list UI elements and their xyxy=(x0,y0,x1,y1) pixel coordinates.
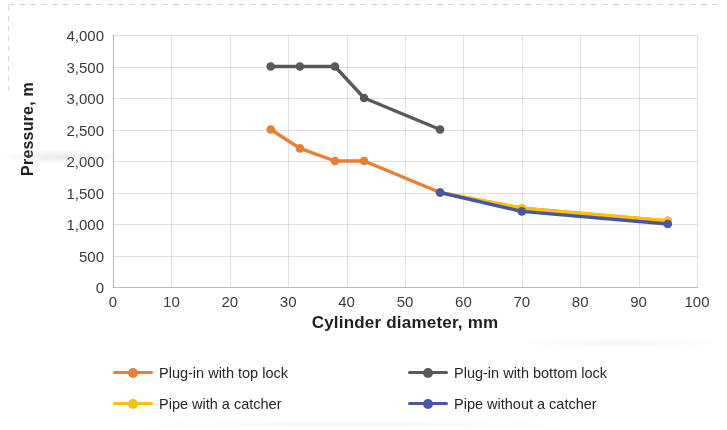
legend-marker-dot xyxy=(128,399,138,409)
series-pipe-without-a-catcher xyxy=(436,188,672,228)
series-line xyxy=(440,193,668,221)
chart-legend: Plug-in with top lockPlug-in with bottom… xyxy=(113,358,697,418)
data-point-marker xyxy=(331,157,340,166)
legend-label: Plug-in with bottom lock xyxy=(454,365,607,381)
data-point-marker xyxy=(518,207,527,216)
legend-label: Plug-in with top lock xyxy=(159,365,288,381)
data-point-marker xyxy=(360,94,369,103)
data-point-marker xyxy=(331,62,340,71)
series-line xyxy=(271,67,440,130)
legend-swatch-icon xyxy=(113,397,153,411)
data-point-marker xyxy=(266,62,275,71)
legend-marker-dot xyxy=(423,368,433,378)
data-point-marker xyxy=(436,125,445,134)
legend-marker-dot xyxy=(128,368,138,378)
series-plug-in-with-top-lock xyxy=(266,125,672,225)
data-point-marker xyxy=(266,125,275,134)
legend-item[interactable]: Pipe without a catcher xyxy=(408,389,697,418)
legend-label: Pipe with a catcher xyxy=(159,396,282,412)
line-chart: 05001,0001,5002,0002,5003,0003,5004,000 … xyxy=(0,0,727,430)
data-point-marker xyxy=(436,188,445,197)
data-point-marker xyxy=(296,144,305,153)
series-plug-in-with-bottom-lock xyxy=(266,62,444,134)
legend-label: Pipe without a catcher xyxy=(454,396,597,412)
series-line xyxy=(271,130,668,221)
data-point-marker xyxy=(360,157,369,166)
legend-swatch-icon xyxy=(113,366,153,380)
legend-item[interactable]: Pipe with a catcher xyxy=(113,389,402,418)
legend-item[interactable]: Plug-in with bottom lock xyxy=(408,358,697,387)
legend-marker-dot xyxy=(423,399,433,409)
legend-item[interactable]: Plug-in with top lock xyxy=(113,358,402,387)
legend-swatch-icon xyxy=(408,397,448,411)
data-point-marker xyxy=(664,220,673,229)
legend-swatch-icon xyxy=(408,366,448,380)
data-point-marker xyxy=(296,62,305,71)
